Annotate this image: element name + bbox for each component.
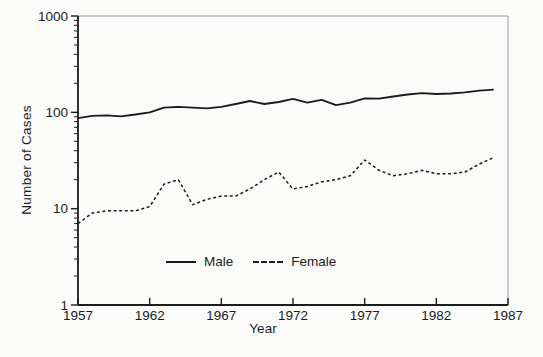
x-axis-title: Year — [78, 321, 448, 336]
legend: Male Female — [166, 254, 336, 269]
legend-item-female: Female — [253, 254, 336, 269]
x-tick-label: 1987 — [493, 308, 523, 323]
y-tick-label: 10 — [53, 201, 68, 216]
plot-area: 11010010001957196219671972197719821987 — [0, 0, 543, 357]
legend-item-male: Male — [166, 254, 233, 269]
y-tick-label: 1000 — [38, 9, 68, 24]
legend-label-male: Male — [204, 254, 233, 269]
legend-label-female: Female — [291, 254, 336, 269]
male-line-sample — [166, 261, 196, 263]
line-chart-figure: 11010010001957196219671972197719821987 N… — [0, 0, 543, 357]
male-line — [78, 90, 494, 119]
female-line-sample — [253, 261, 283, 263]
y-tick-label: 100 — [45, 105, 68, 120]
y-axis-title: Number of Cases — [19, 105, 34, 215]
female-line — [78, 158, 494, 224]
